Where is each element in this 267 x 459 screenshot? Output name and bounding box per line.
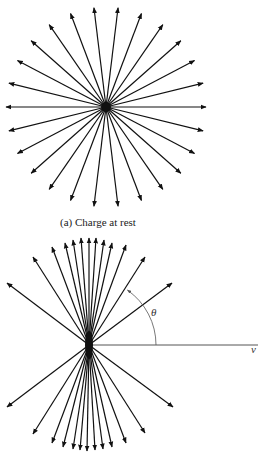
- field-line-arrow: [89, 345, 173, 407]
- field-line-arrow: [73, 240, 89, 345]
- caption-charge-at-rest: (a) Charge at rest: [60, 216, 136, 229]
- field-lines-figure: (a) Charge at rest θ v: [0, 0, 267, 459]
- charge-at-rest-point: [101, 102, 111, 112]
- velocity-label: v: [251, 343, 256, 355]
- field-line-arrow: [89, 240, 104, 345]
- moving-charge-point: [85, 331, 93, 359]
- theta-label: θ: [151, 306, 157, 318]
